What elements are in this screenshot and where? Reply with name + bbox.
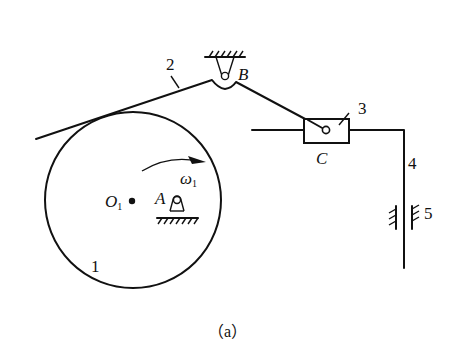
label-link-3: 3 (358, 100, 367, 117)
label-link-2: 2 (166, 56, 175, 73)
label-point-c: C (316, 150, 327, 167)
center-o1-dot (129, 198, 135, 204)
label-link-4: 4 (408, 155, 417, 172)
label-point-b: B (238, 66, 248, 83)
label-link-1: 1 (91, 258, 100, 275)
leader-2 (171, 76, 179, 88)
label-o1: O1 (105, 193, 122, 212)
label-omega1: ω1 (180, 170, 197, 189)
arrowhead-icon (188, 156, 206, 164)
mechanism-diagram: 2 B 3 C 4 5 ω1 O1 A 1 （a） (0, 0, 467, 362)
label-point-a: A (155, 190, 165, 207)
label-link-5: 5 (424, 205, 433, 222)
rod-4 (349, 130, 404, 268)
pin-c (322, 126, 329, 133)
diagram-svg (0, 0, 467, 362)
figure-caption: （a） (208, 324, 247, 340)
